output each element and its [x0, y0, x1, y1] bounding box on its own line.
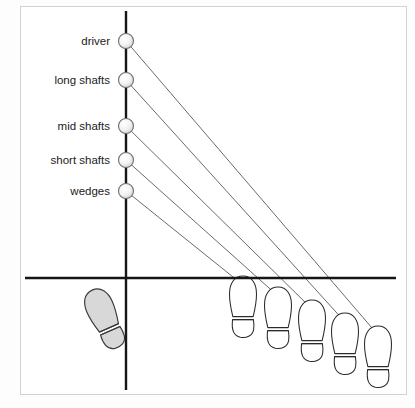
trail-foot-mid-shafts — [299, 300, 326, 362]
ball-short-shafts — [119, 153, 134, 168]
ball-wedges — [119, 184, 134, 199]
trail-foot-driver — [365, 326, 392, 388]
ball-long-shafts — [119, 73, 134, 88]
label-driver: driver — [81, 35, 110, 47]
trail-foot-long-shafts — [332, 313, 359, 375]
ray-short-shafts — [126, 160, 278, 296]
figure-stage: REPRODUCED COURTESY OF AMELIA ALLDAY-WHI… — [0, 0, 415, 408]
label-short-shafts: short shafts — [51, 154, 110, 166]
label-mid-shafts: mid shafts — [58, 120, 110, 132]
label-wedges: wedges — [70, 185, 110, 197]
figure-frame: driver long shafts mid shafts short shaf… — [20, 6, 407, 395]
ray-mid-shafts — [126, 126, 312, 309]
lead-foot — [80, 285, 131, 354]
ball-mid-shafts — [119, 119, 134, 134]
stance-diagram — [21, 7, 407, 395]
trail-feet-group — [230, 276, 392, 388]
trail-foot-wedges — [230, 276, 257, 338]
label-long-shafts: long shafts — [54, 74, 110, 86]
trail-foot-short-shafts — [265, 287, 292, 349]
ray-wedges — [126, 191, 243, 285]
ball-driver — [119, 34, 134, 49]
